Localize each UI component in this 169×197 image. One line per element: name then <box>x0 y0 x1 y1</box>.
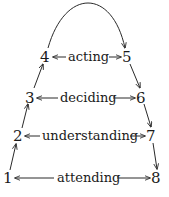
arrow-6-to-7 <box>144 104 151 127</box>
node-6: 6 <box>136 89 146 107</box>
level-label-attending: attending <box>57 170 120 185</box>
arc-4-to-5 <box>48 3 125 48</box>
node-8: 8 <box>151 169 161 187</box>
node-1: 1 <box>3 169 13 187</box>
arrow-5-to-6 <box>130 64 140 88</box>
node-3: 3 <box>25 89 35 107</box>
node-4: 4 <box>40 48 50 66</box>
level-label-acting: acting <box>68 49 109 64</box>
level-label-deciding: deciding <box>60 90 117 105</box>
level-label-understanding: understanding <box>42 128 138 143</box>
node-2: 2 <box>13 127 23 145</box>
arrow-1-to-2 <box>10 144 16 170</box>
node-5: 5 <box>122 48 132 66</box>
node-7: 7 <box>146 127 156 145</box>
arrow-2-to-3 <box>22 104 28 128</box>
diagram-svg: 4 acting 5 3 deciding 6 2 understanding … <box>0 0 169 197</box>
arrow-7-to-8 <box>153 143 157 169</box>
arrow-3-to-4 <box>34 64 43 88</box>
stage-diagram: 4 acting 5 3 deciding 6 2 understanding … <box>0 0 169 197</box>
